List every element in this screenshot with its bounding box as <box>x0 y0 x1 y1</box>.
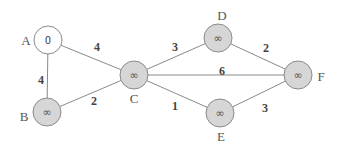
edge-weight-a-c: 4 <box>94 40 100 54</box>
node-label-e: E <box>217 129 225 144</box>
edge-weight-d-f: 2 <box>263 41 269 55</box>
node-label-c: C <box>130 91 139 106</box>
node-b: ∞ <box>33 98 61 126</box>
node-label-b: B <box>20 109 29 124</box>
edge-weight-b-c: 2 <box>91 94 97 108</box>
node-e: ∞ <box>206 99 234 127</box>
node-label-d: D <box>217 8 226 23</box>
graph-diagram: 44236123 0∞∞∞∞∞ ABCDEF <box>0 0 339 149</box>
node-a: 0 <box>34 26 62 54</box>
node-d: ∞ <box>204 24 232 52</box>
node-label-a: A <box>21 33 31 48</box>
node-distance-d: ∞ <box>213 32 222 45</box>
node-c: ∞ <box>120 61 148 89</box>
node-f: ∞ <box>284 61 312 89</box>
edge-weight-e-f: 3 <box>262 101 268 115</box>
node-labels-layer: ABCDEF <box>20 8 325 144</box>
node-label-f: F <box>317 69 324 84</box>
node-distance-a: 0 <box>45 35 51 46</box>
graph-svg: 44236123 0∞∞∞∞∞ ABCDEF <box>0 0 339 149</box>
node-distance-f: ∞ <box>293 69 302 82</box>
edge-weight-c-f: 6 <box>219 64 225 78</box>
node-distance-e: ∞ <box>215 107 224 120</box>
edge-weights-layer: 44236123 <box>38 40 269 115</box>
edge-weight-c-d: 3 <box>172 40 178 54</box>
edge-weight-c-e: 1 <box>172 99 178 113</box>
node-distance-b: ∞ <box>42 106 51 119</box>
node-distance-c: ∞ <box>129 69 138 82</box>
edge-weight-a-b: 4 <box>38 73 44 87</box>
